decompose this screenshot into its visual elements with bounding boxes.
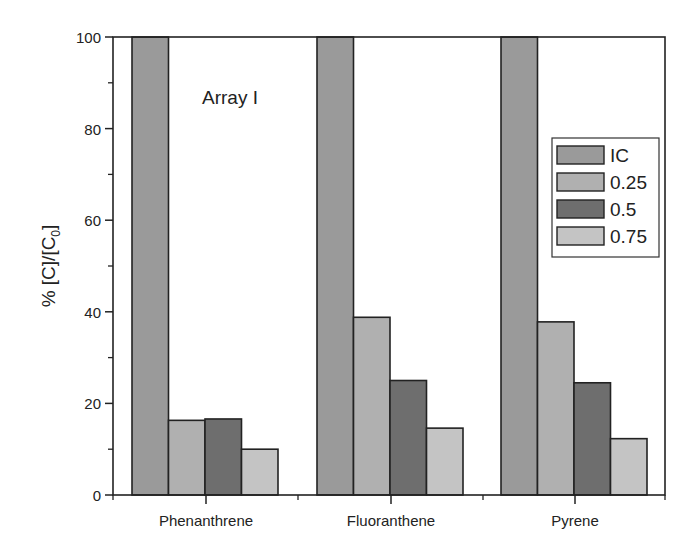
bar-pyrene-0_25 xyxy=(538,322,575,495)
y-axis-label-prefix: % [C]/[C xyxy=(38,237,59,308)
bar-fluoranthene-0_25 xyxy=(354,317,391,495)
bar-pyrene-0_75 xyxy=(611,439,648,495)
svg-text:% [C]/[C0]: % [C]/[C0] xyxy=(38,225,63,308)
legend-swatch-0_75 xyxy=(557,227,604,245)
x-tick-label-fluoranthene: Fluoranthene xyxy=(347,512,435,529)
y-tick-label: 0 xyxy=(93,487,101,504)
bar-phenanthrene-IC xyxy=(132,37,169,495)
legend-label-0_25: 0.25 xyxy=(610,172,647,193)
y-tick-label: 100 xyxy=(76,29,101,46)
bar-fluoranthene-0_5 xyxy=(390,381,427,496)
legend-swatch-0_5 xyxy=(557,200,604,218)
bar-phenanthrene-0_25 xyxy=(169,420,206,495)
legend-swatch-IC xyxy=(557,146,604,164)
y-axis: 020406080100 xyxy=(76,29,113,504)
legend-swatch-0_25 xyxy=(557,173,604,191)
y-tick-label: 80 xyxy=(84,121,101,138)
y-tick-label: 20 xyxy=(84,395,101,412)
bar-fluoranthene-IC xyxy=(317,37,354,495)
annotation-array-label: Array I xyxy=(202,87,258,108)
y-axis-label: % [C]/[C0] xyxy=(38,225,63,308)
bar-phenanthrene-0_5 xyxy=(205,419,242,495)
y-tick-label: 40 xyxy=(84,304,101,321)
legend: IC0.250.50.75 xyxy=(552,138,659,257)
legend-label-0_75: 0.75 xyxy=(610,226,647,247)
bar-fluoranthene-0_75 xyxy=(427,428,464,495)
legend-label-IC: IC xyxy=(610,145,629,166)
x-tick-label-phenanthrene: Phenanthrene xyxy=(159,512,253,529)
bar-phenanthrene-0_75 xyxy=(242,449,279,495)
y-tick-label: 60 xyxy=(84,212,101,229)
bar-chart: 020406080100 PhenanthreneFluoranthenePyr… xyxy=(0,0,697,556)
legend-label-0_5: 0.5 xyxy=(610,199,636,220)
x-axis: PhenanthreneFluoranthenePyrene xyxy=(113,495,665,529)
bar-pyrene-0_5 xyxy=(574,383,611,495)
y-axis-label-suffix: ] xyxy=(38,225,59,230)
x-tick-label-pyrene: Pyrene xyxy=(551,512,599,529)
bar-pyrene-IC xyxy=(501,37,538,495)
